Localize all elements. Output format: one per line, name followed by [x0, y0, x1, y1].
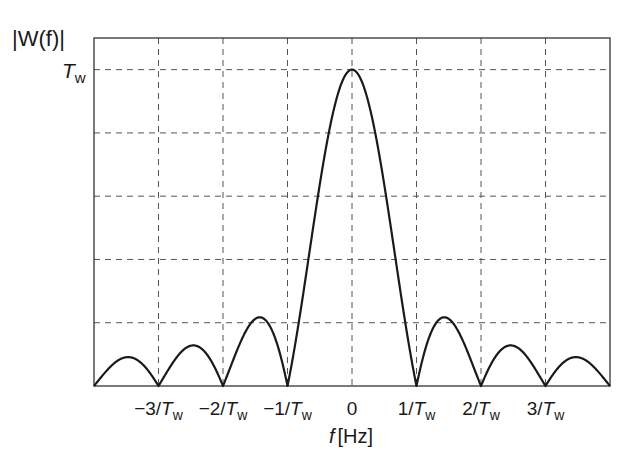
sinc-magnitude-chart: |W(f)| Tw −3/Tw−2/Tw−1/Tw01/Tw2/Tw3/Tw f… — [0, 0, 632, 471]
x-tick-label: 3/Tw — [527, 398, 565, 423]
grid-lines — [94, 38, 610, 386]
x-axis-var: f — [329, 425, 337, 447]
x-tick-label: 0 — [347, 398, 358, 419]
x-tick-label: −3/Tw — [134, 398, 184, 423]
y-axis-label-text: |W(f)| — [12, 26, 65, 51]
y-axis-label: |W(f)| — [12, 26, 65, 51]
svg-text:f[Hz]: f[Hz] — [329, 425, 373, 447]
plot-frame — [94, 38, 610, 386]
x-tick-label: 1/Tw — [398, 398, 436, 423]
y-tick-label-tw: Tw — [62, 59, 86, 86]
x-tick-labels: −3/Tw−2/Tw−1/Tw01/Tw2/Tw3/Tw — [134, 398, 565, 423]
x-tick-label: −1/Tw — [263, 398, 313, 423]
y-tick-sub: w — [74, 69, 86, 86]
x-tick-label: 2/Tw — [462, 398, 500, 423]
svg-text:Tw: Tw — [62, 59, 86, 86]
x-axis-label: f[Hz] — [329, 425, 373, 447]
x-tick-label: −2/Tw — [199, 398, 249, 423]
x-axis-unit: [Hz] — [338, 425, 374, 447]
